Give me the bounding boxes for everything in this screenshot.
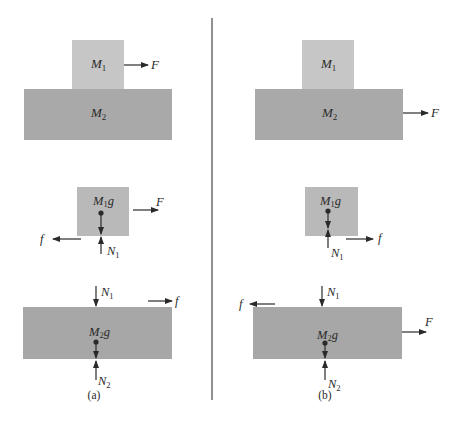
force-f-label: F bbox=[424, 315, 433, 329]
fbd-block-m1 bbox=[305, 187, 358, 236]
panel-a-fbd-m2: N1 f M2g N2 bbox=[23, 285, 180, 390]
panel-a-caption: (a) bbox=[88, 389, 101, 402]
friction-f-label: f bbox=[175, 294, 180, 308]
normal-n1-label: N1 bbox=[106, 244, 120, 260]
force-f-label: F bbox=[150, 57, 160, 72]
weight-m1g-label: M1g bbox=[319, 194, 341, 209]
panel-a-setup: M1 M2 F bbox=[24, 40, 172, 140]
weight-m2g-label: M2g bbox=[88, 325, 110, 340]
friction-f-label: f bbox=[40, 232, 45, 246]
panel-a-fbd-m1: M1g N1 F f bbox=[40, 187, 164, 260]
panel-b-fbd-m2: f N1 M2g N2 F bbox=[239, 285, 433, 393]
friction-f-label: f bbox=[378, 231, 383, 245]
panel-b-setup: M1 M2 F bbox=[255, 40, 440, 140]
panel-b-caption: (b) bbox=[318, 389, 332, 402]
panel-a: M1 M2 F M1g N1 F f N1 f M2g bbox=[23, 40, 180, 402]
weight-m1g-label: M1g bbox=[92, 194, 114, 209]
panel-b: M1 M2 F M1g N1 f f N1 M2g N2 bbox=[239, 40, 440, 402]
friction-f-label: f bbox=[239, 297, 244, 311]
weight-m2g-label: M2g bbox=[316, 328, 338, 343]
free-body-diagram-figure: M1 M2 F M1g N1 F f N1 f M2g bbox=[0, 0, 458, 425]
normal-n1-label: N1 bbox=[326, 285, 340, 301]
panel-b-fbd-m1: M1g N1 f bbox=[305, 187, 383, 262]
normal-n1-label: N1 bbox=[330, 246, 344, 262]
force-f-label: F bbox=[430, 105, 440, 120]
normal-n2-label: N2 bbox=[97, 374, 111, 390]
normal-n1-label: N1 bbox=[100, 285, 114, 301]
force-f-label: F bbox=[155, 195, 164, 209]
